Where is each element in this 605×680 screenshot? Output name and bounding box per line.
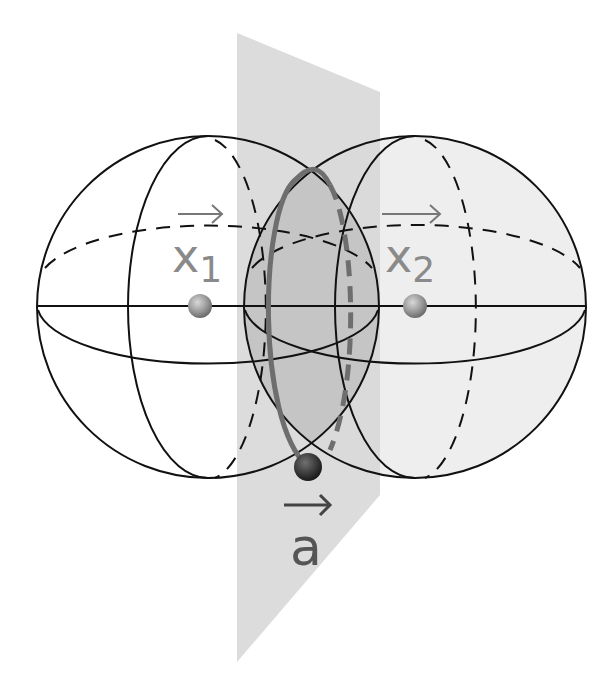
center-x2-point (403, 294, 427, 318)
center-x1-point (188, 294, 212, 318)
point-a (294, 453, 322, 481)
two-spheres-diagram: x1 x2 a (0, 0, 605, 680)
center-1-label: x1 (172, 229, 222, 290)
point-a-label: a (290, 517, 322, 577)
direction-arrow-1 (178, 205, 222, 223)
